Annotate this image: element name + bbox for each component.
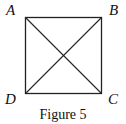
vertex-label-a: A [5,2,16,18]
figure-caption: Figure 5 [39,107,86,122]
vertex-label-b: B [109,2,118,18]
vertex-label-d: D [4,91,16,107]
figure-5-diagram: A B C D Figure 5 [0,0,126,124]
vertex-label-c: C [108,91,119,107]
